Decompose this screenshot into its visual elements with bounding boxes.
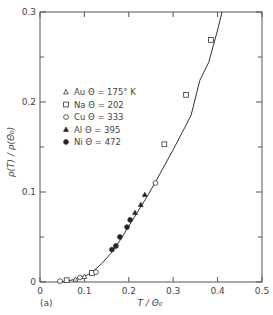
y-tick-label: 0.3	[22, 7, 36, 17]
data-point-na	[64, 278, 69, 283]
legend-item-ni: Ni Θ = 472	[74, 137, 121, 147]
data-point-cu	[94, 270, 99, 275]
x-axis-label: T / Θ₀	[138, 298, 163, 308]
data-point-al	[142, 192, 147, 196]
data-point-cu	[78, 275, 83, 280]
y-axis-label: ρ(T) / ρ(Θ₀)	[6, 127, 16, 177]
legend: Au Θ = 175° KNa Θ = 202Cu Θ = 333Al Θ = …	[64, 87, 137, 147]
x-tick-label: 0.5	[255, 286, 269, 296]
data-point-na	[184, 92, 189, 97]
data-point-ni	[118, 235, 123, 240]
legend-item-al: Al Θ = 395	[74, 125, 120, 135]
legend-marker-cu	[64, 115, 69, 120]
data-point-ni	[128, 218, 133, 223]
x-tick-label: 0.4	[210, 286, 225, 296]
plot-axes	[40, 12, 262, 282]
legend-marker-ni	[64, 140, 69, 145]
legend-item-cu: Cu Θ = 333	[74, 112, 123, 122]
x-tick-label: 0	[37, 286, 43, 296]
plot-frame	[40, 12, 262, 282]
data-points	[58, 38, 214, 284]
y-tick-label: 0.1	[22, 187, 36, 197]
data-point-ni	[110, 247, 115, 252]
y-tick-label: 0.2	[22, 97, 36, 107]
panel-label: (a)	[40, 298, 53, 308]
y-tick-label: 0	[30, 277, 36, 287]
legend-marker-na	[64, 102, 69, 107]
legend-item-au: Au Θ = 175° K	[74, 87, 136, 97]
data-point-al	[133, 210, 138, 214]
data-point-cu	[58, 279, 63, 284]
fit-curve	[58, 12, 222, 282]
data-point-ni	[125, 225, 130, 230]
x-tick-label: 0.1	[77, 286, 91, 296]
data-point-na	[162, 142, 167, 147]
data-point-ni	[114, 244, 119, 249]
legend-marker-au	[64, 90, 69, 94]
axis-ticks: 00.10.20.30.40.500.10.20.3	[22, 7, 269, 296]
data-point-cu	[153, 181, 158, 186]
x-tick-label: 0.2	[122, 286, 136, 296]
legend-item-na: Na Θ = 202	[74, 100, 124, 110]
data-point-na	[209, 38, 214, 43]
x-tick-label: 0.3	[166, 286, 180, 296]
chart: 00.10.20.30.40.500.10.20.3 Au Θ = 175° K…	[0, 0, 273, 315]
legend-marker-al	[64, 127, 69, 131]
